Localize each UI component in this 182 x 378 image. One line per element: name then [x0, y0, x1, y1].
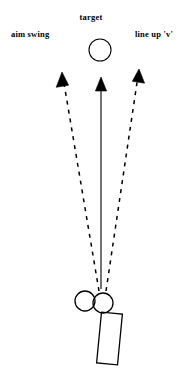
line-up-v-arrow-shaft: [106, 82, 137, 291]
line-up-v-arrow: [106, 69, 145, 291]
aim-swing-arrowhead: [56, 72, 68, 87]
aim-swing-arrow: [56, 72, 99, 291]
club-rectangle-icon: [97, 312, 123, 365]
diagram-canvas: [0, 0, 182, 378]
stance-circle-left-icon: [75, 291, 95, 311]
alignment-diagram: target aim swing line up 'v': [0, 0, 182, 378]
target-ball-icon: [89, 39, 111, 61]
line-up-v-arrowhead: [132, 69, 144, 83]
line-up-v-label: line up 'v': [135, 30, 173, 39]
target-label: target: [0, 13, 182, 22]
target-aim-arrowhead: [95, 77, 106, 91]
aim-swing-arrow-shaft: [64, 85, 99, 291]
target-aim-arrow: [95, 77, 106, 289]
aim-swing-label: aim swing: [11, 30, 49, 39]
stance-circle-right-icon: [93, 293, 113, 313]
